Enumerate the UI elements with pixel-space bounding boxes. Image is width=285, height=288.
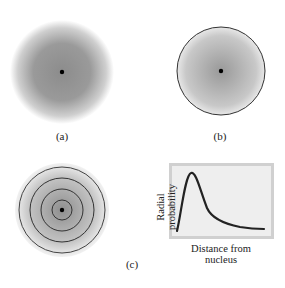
x-axis-label: Distance from nucleus: [186, 243, 256, 265]
panel-a-electron-cloud: [10, 20, 114, 124]
nucleus-dot: [60, 208, 64, 212]
y-axis-label: Radial probability: [155, 169, 177, 245]
panel-b-boundary-surface: [177, 27, 265, 115]
nucleus-dot: [60, 70, 64, 74]
panel-c-shells: [15, 163, 109, 257]
nucleus-dot: [219, 69, 223, 73]
caption-b: (b): [205, 130, 235, 142]
radial-probability-chart: [171, 165, 273, 238]
caption-c: (c): [117, 258, 147, 270]
caption-a: (a): [47, 130, 77, 142]
